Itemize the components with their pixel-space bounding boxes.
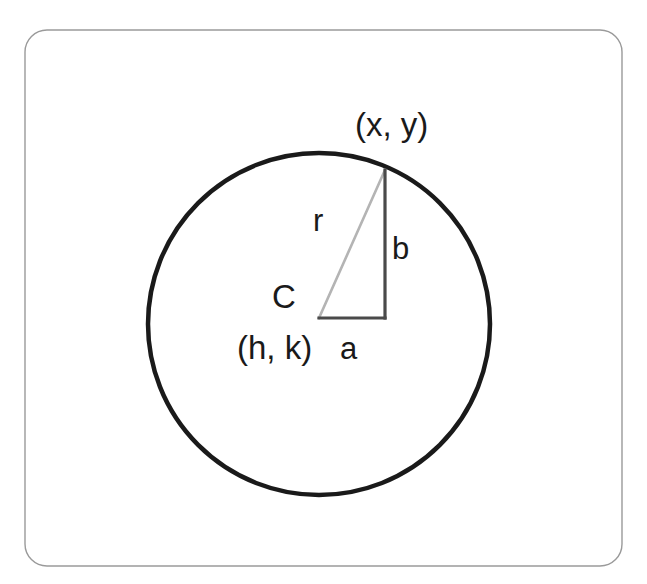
label-leg-vertical: b [392, 231, 409, 266]
label-center-coords: (h, k) [237, 329, 312, 366]
circle-geometry-diagram: (x, y) r b C (h, k) a [0, 0, 647, 584]
label-point-on-circle: (x, y) [355, 106, 428, 143]
rounded-frame [25, 30, 622, 566]
figure-container: (x, y) r b C (h, k) a [0, 0, 647, 584]
label-leg-horizontal: a [340, 331, 358, 366]
label-radius: r [313, 203, 323, 238]
radius-line [319, 170, 385, 318]
label-center-marker: C [272, 278, 296, 315]
